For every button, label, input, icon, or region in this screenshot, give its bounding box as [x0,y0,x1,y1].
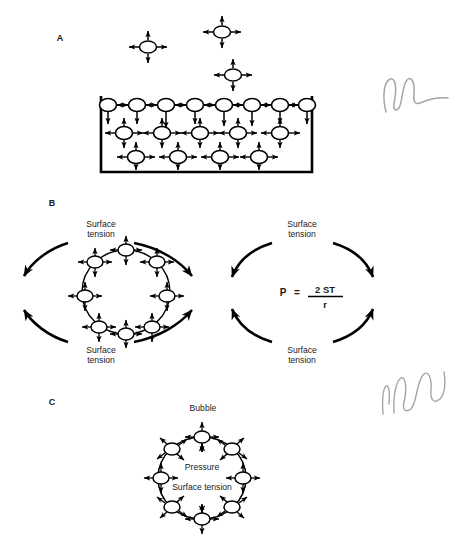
formula-lhs: P [280,287,287,298]
surface-tension-label-bottom-line1: Surface [86,345,116,355]
surface-tension-label-top-line1: Surface [86,219,116,229]
surface-tension-figure: A [0,0,467,552]
surface-tension-label-bottom-line2: tension [288,355,316,365]
formula-equals: = [294,287,300,298]
surface-tension-label-top-line2: tension [87,229,115,239]
bubble-inner-label-pressure: Pressure [185,462,220,472]
formula-numerator: 2 ST [315,284,335,295]
bubble-inner-label-surface-tension: Surface tension [172,482,232,492]
panel-a-label: A [57,33,64,43]
bubble-title: Bubble [190,403,217,413]
formula-denominator: r [323,299,327,310]
panel-c-label: C [49,397,56,407]
panel-b-label: B [49,198,56,208]
surface-tension-label-bottom-line2: tension [87,355,115,365]
figure-root: A [0,0,467,552]
surface-tension-label-bottom-line1: Surface [287,345,317,355]
surface-tension-label-top-line1: Surface [287,219,317,229]
surface-tension-label-top-line2: tension [288,229,316,239]
